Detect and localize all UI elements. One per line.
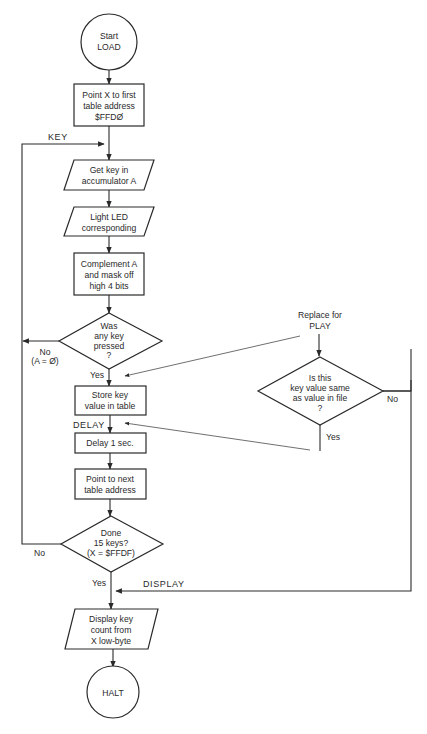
point-x-first-process: Point X to first table address $FFDØ bbox=[74, 84, 144, 126]
store-key-line2: value in table bbox=[85, 401, 136, 411]
start-load-terminal: Start LOAD bbox=[81, 14, 137, 70]
yes-same-label: Yes bbox=[326, 432, 340, 442]
done-line1: Done bbox=[101, 528, 122, 538]
get-key-io: Get key in accumulator A bbox=[64, 160, 154, 190]
start-label-line1: Start bbox=[100, 31, 119, 41]
same-line2: key value same bbox=[290, 383, 350, 393]
complement-line2: and mask off bbox=[84, 270, 134, 280]
display-key-count-io: Display key count from X low-byte bbox=[65, 609, 158, 649]
edge-done-no bbox=[22, 516, 61, 544]
key-label: KEY bbox=[48, 132, 68, 142]
light-led-line2: corresponding bbox=[82, 223, 137, 233]
complement-line1: Complement A bbox=[81, 259, 138, 269]
point-first-line3: $FFDØ bbox=[95, 112, 123, 122]
point-first-line2: table address bbox=[83, 101, 135, 111]
same-value-decision: Is this key value same as value in file … bbox=[258, 357, 383, 425]
store-key-line1: Store key bbox=[92, 390, 129, 400]
delay-label: DELAY bbox=[73, 420, 105, 430]
yes-pointer-to-delay bbox=[125, 423, 310, 450]
light-led-line1: Light LED bbox=[90, 212, 128, 222]
light-led-io: Light LED corresponding bbox=[64, 207, 154, 236]
complement-process: Complement A and mask off high 4 bits bbox=[74, 253, 144, 295]
pressed-line2: any key bbox=[94, 331, 124, 341]
display-label: DISPLAY bbox=[143, 579, 185, 589]
get-key-line2: accumulator A bbox=[82, 176, 137, 186]
edge-same-no bbox=[383, 380, 411, 391]
no-same-label: No bbox=[387, 394, 398, 404]
same-line3: as value in file bbox=[293, 393, 348, 403]
a-zero-label: (A = Ø) bbox=[31, 356, 59, 366]
done-15-keys-decision: Done 15 keys? (X = $FFDF) bbox=[61, 516, 163, 572]
display-line2: count from bbox=[91, 625, 132, 635]
pressed-line1: Was bbox=[101, 321, 118, 331]
store-key-process: Store key value in table bbox=[75, 386, 146, 415]
replace-note-line1: Replace for bbox=[298, 310, 342, 320]
done-line3: (X = $FFDF) bbox=[87, 548, 135, 558]
same-line1: Is this bbox=[309, 373, 331, 383]
yes-done-label: Yes bbox=[92, 578, 106, 588]
point-next-process: Point to next table address bbox=[75, 469, 146, 499]
delay-process: Delay 1 sec. bbox=[75, 433, 146, 453]
point-next-line2: table address bbox=[84, 485, 136, 495]
delay-line1: Delay 1 sec. bbox=[86, 438, 133, 448]
display-line1: Display key bbox=[89, 614, 134, 624]
point-first-line1: Point X to first bbox=[82, 90, 136, 100]
done-line2: 15 keys? bbox=[94, 538, 129, 548]
same-line4: ? bbox=[318, 403, 323, 413]
get-key-line1: Get key in bbox=[90, 165, 129, 175]
point-next-line1: Point to next bbox=[86, 474, 134, 484]
complement-line3: high 4 bits bbox=[89, 281, 128, 291]
replace-note-line2: PLAY bbox=[309, 321, 331, 331]
display-line3: X low-byte bbox=[91, 636, 131, 646]
was-key-pressed-decision: Was any key pressed ? bbox=[59, 313, 162, 369]
pressed-line4: ? bbox=[107, 350, 112, 360]
start-label-line2: LOAD bbox=[97, 42, 120, 52]
no-done-label: No bbox=[34, 548, 45, 558]
flowchart-canvas: Start LOAD Point X to first table addres… bbox=[0, 0, 427, 734]
halt-label: HALT bbox=[102, 688, 124, 698]
yes-pressed-label: Yes bbox=[90, 370, 104, 380]
halt-terminal: HALT bbox=[87, 666, 139, 718]
